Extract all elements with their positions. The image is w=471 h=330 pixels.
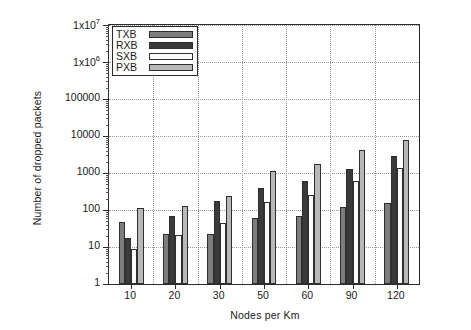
x-tick-label: 50 <box>243 289 283 301</box>
y-tick-label: 10000 <box>40 128 100 140</box>
legend-swatch-RXB <box>149 42 193 49</box>
bar-PXB-20 <box>182 206 188 284</box>
bar-PXB-90 <box>359 150 365 284</box>
x-tick-label: 30 <box>199 289 239 301</box>
chart-legend: TXBRXBSXBPXB <box>112 26 198 76</box>
legend-label: PXB <box>116 62 147 73</box>
x-tick-label: 60 <box>287 289 327 301</box>
bar-PXB-60 <box>314 164 320 284</box>
legend-swatch-SXB <box>149 53 193 60</box>
y-tick-label: 1000 <box>40 165 100 177</box>
legend-swatch-TXB <box>149 31 193 38</box>
y-tick-label: 100000 <box>40 91 100 103</box>
legend-item-PXB: PXB <box>116 62 193 73</box>
x-tick-label: 120 <box>376 289 416 301</box>
y-tick-label: 1x106 <box>40 54 100 68</box>
x-tick-label: 20 <box>154 289 194 301</box>
y-axis-tick <box>103 284 109 285</box>
y-tick-label: 1 <box>40 276 100 288</box>
bar-PXB-120 <box>403 140 409 284</box>
x-tick-label: 10 <box>110 289 150 301</box>
bar-PXB-30 <box>226 196 232 284</box>
legend-swatch-PXB <box>149 64 193 71</box>
y-tick-label: 100 <box>40 202 100 214</box>
chart-figure: Number of dropped packets Nodes per Km 1… <box>0 0 471 330</box>
y-tick-label: 1x107 <box>40 17 100 31</box>
bar-PXB-10 <box>137 208 143 284</box>
y-tick-label: 10 <box>40 239 100 251</box>
x-axis-title: Nodes per Km <box>105 309 425 321</box>
x-tick-label: 90 <box>332 289 372 301</box>
bar-PXB-50 <box>270 171 276 284</box>
